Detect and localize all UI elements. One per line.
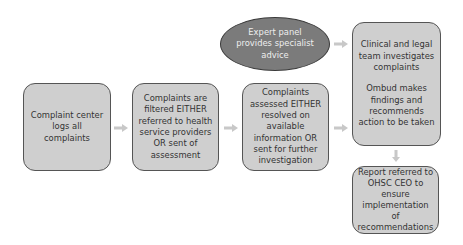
node-investigation: Clinical and legal team investigates com… xyxy=(352,22,441,146)
node-filtered-text: Complaints are filtered EITHER referred … xyxy=(137,93,214,161)
node-report-text: Report referred to OHSC CEO to ensure im… xyxy=(357,167,434,233)
node-report: Report referred to OHSC CEO to ensure im… xyxy=(352,166,439,234)
node-assessed-text: Complaints assessed EITHER resolved on a… xyxy=(247,87,324,166)
node-assessed: Complaints assessed EITHER resolved on a… xyxy=(242,83,329,171)
node-investigation-text-1: Clinical and legal team investigates com… xyxy=(357,39,436,73)
node-filtered: Complaints are filtered EITHER referred … xyxy=(132,83,219,171)
arrow-right-icon xyxy=(224,124,238,132)
arrow-right-icon xyxy=(114,124,128,132)
node-expert-panel-text: Expert panel provides specialist advice xyxy=(233,27,317,61)
node-expert-panel: Expert panel provides specialist advice xyxy=(220,17,330,71)
arrow-right-icon xyxy=(334,40,348,48)
node-investigation-text-2: Ombud makes findings and recommends acti… xyxy=(357,83,436,128)
arrow-right-icon xyxy=(334,124,348,132)
arrow-down-icon xyxy=(392,150,400,162)
node-complaint-center: Complaint center logs all complaints xyxy=(23,83,111,171)
node-complaint-center-text: Complaint center logs all complaints xyxy=(28,110,106,144)
